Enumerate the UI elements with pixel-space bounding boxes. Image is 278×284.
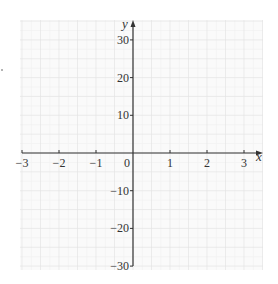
- grid-background: [20, 20, 263, 270]
- x-tick-label: 2: [204, 156, 210, 170]
- stray-mark: [1, 69, 3, 71]
- x-tick-label: 0: [124, 156, 130, 170]
- x-tick-label: 3: [241, 156, 247, 170]
- y-tick-label: 20: [117, 71, 129, 85]
- x-tick-label: −1: [90, 156, 103, 170]
- y-tick-label: −10: [110, 184, 129, 198]
- y-tick-label: 30: [117, 33, 129, 47]
- x-tick-label: −3: [16, 156, 29, 170]
- x-tick-label: 1: [167, 156, 173, 170]
- y-tick-label: −30: [110, 259, 129, 273]
- y-axis-label: y: [120, 16, 128, 31]
- x-axis-label: x: [255, 149, 262, 164]
- coordinate-plane: −3−2−10123302010−10−20−30 x y: [0, 0, 278, 284]
- y-tick-label: −20: [110, 221, 129, 235]
- x-tick-label: −2: [53, 156, 66, 170]
- y-tick-label: 10: [117, 108, 129, 122]
